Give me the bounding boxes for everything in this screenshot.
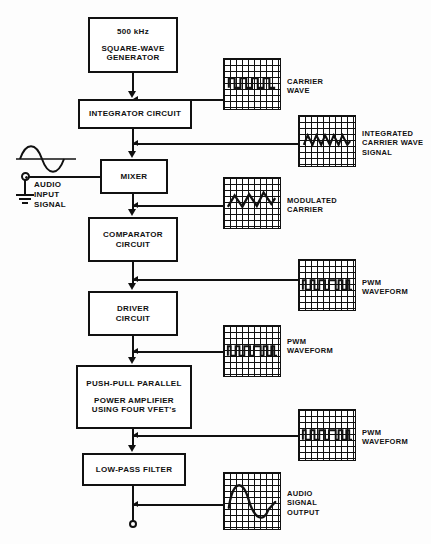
leader-modulated-carrier	[134, 205, 224, 207]
block-power-amplifier[interactable]: PUSH-PULL PARALLEL POWER AMPLIFIER USING…	[76, 365, 192, 429]
tick-pwm-comparator	[133, 276, 138, 282]
scope-audio-output	[223, 472, 281, 530]
scope-carrier-wave	[223, 58, 281, 110]
block-integrator-label: INTEGRATOR CIRCUIT	[89, 109, 181, 118]
pwm-comparator-trace	[299, 260, 355, 310]
caption-carrier-wave: CARRIER WAVE	[287, 77, 323, 96]
block-amplifier-line1: PUSH-PULL PARALLEL	[86, 379, 181, 388]
output-terminal[interactable]	[129, 520, 137, 528]
wire-generator-to-integrator	[132, 73, 134, 92]
leader-pwm-amplifier	[134, 435, 299, 437]
arrow-into-lowpass	[128, 445, 136, 452]
integrated-carrier-trace	[299, 116, 355, 166]
caption-integrated-carrier: INTEGRATED CARRIER WAVE SIGNAL	[362, 129, 423, 157]
wire-driver-to-amplifier	[132, 336, 134, 358]
scope-pwm-comparator	[298, 259, 356, 311]
pwm-amplifier-trace	[299, 410, 355, 460]
pwm-driver-trace	[224, 326, 280, 376]
block-lowpass-label: LOW-PASS FILTER	[96, 465, 172, 474]
scope-modulated-carrier	[223, 177, 281, 229]
block-comparator[interactable]: COMPARATOR CIRCUIT	[88, 217, 178, 262]
block-driver[interactable]: DRIVER CIRCUIT	[88, 291, 178, 336]
caption-audio-output: AUDIO SIGNAL OUTPUT	[287, 489, 320, 517]
leader-pwm-comparator	[134, 279, 299, 281]
block-driver-line2: CIRCUIT	[116, 314, 151, 323]
arrow-into-comparator	[128, 209, 136, 216]
audio-output-trace	[224, 473, 280, 529]
scope-pwm-amplifier	[298, 409, 356, 461]
block-generator-line1: 500 kHz	[117, 27, 149, 36]
leader-audio-output	[134, 504, 224, 506]
audio-input-label: AUDIO INPUT SIGNAL	[34, 180, 66, 209]
block-comparator-line1: COMPARATOR	[103, 230, 163, 239]
arrow-into-amplifier	[128, 357, 136, 364]
audio-input-sine-icon	[16, 144, 76, 174]
scope-pwm-driver	[223, 325, 281, 377]
block-driver-line1: DRIVER	[117, 304, 149, 313]
tick-pwm-amplifier	[133, 432, 138, 438]
block-low-pass-filter[interactable]: LOW-PASS FILTER	[82, 453, 186, 486]
leader-integrated-carrier	[134, 143, 299, 145]
tick-modulated-carrier	[133, 202, 138, 208]
block-mixer-label: MIXER	[121, 172, 148, 181]
block-generator[interactable]: 500 kHz SQUARE-WAVE GENERATOR	[88, 17, 178, 73]
tick-integrated-carrier	[133, 140, 138, 146]
caption-pwm-driver: PWM WAVEFORM	[287, 337, 333, 356]
tick-audio-output	[133, 501, 138, 507]
scope-integrated-carrier	[298, 115, 356, 167]
block-comparator-line2: CIRCUIT	[116, 240, 151, 249]
arrow-into-driver	[128, 283, 136, 290]
ground-icon	[14, 194, 36, 207]
caption-pwm-amplifier: PWM WAVEFORM	[362, 428, 408, 447]
block-mixer[interactable]: MIXER	[100, 159, 168, 194]
caption-pwm-comparator: PWM WAVEFORM	[362, 278, 408, 297]
wire-audio-input-to-mixer	[29, 176, 101, 178]
block-generator-line2: SQUARE-WAVE GENERATOR	[101, 44, 164, 63]
caption-modulated-carrier: MODULATED CARRIER	[287, 196, 337, 215]
modulated-carrier-trace	[224, 178, 280, 228]
arrow-into-mixer	[128, 151, 136, 158]
carrier-wave-trace	[224, 59, 280, 109]
block-integrator[interactable]: INTEGRATOR CIRCUIT	[78, 99, 192, 129]
block-amplifier-line2: POWER AMPLIFIER USING FOUR VFET's	[92, 396, 176, 415]
tick-pwm-driver	[133, 348, 138, 354]
block-diagram-canvas: AUDIO INPUT SIGNAL 500 kHz SQUARE-WAVE G…	[0, 0, 431, 544]
leader-pwm-driver	[134, 351, 224, 353]
